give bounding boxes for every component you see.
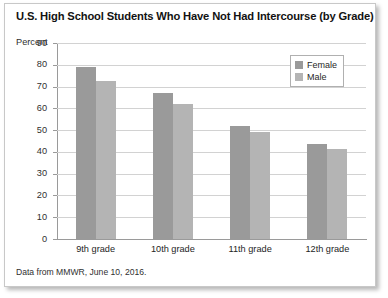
y-axis-tick-label: 30 <box>17 168 47 178</box>
y-axis-tick-label: 10 <box>17 212 47 222</box>
x-axis-tick-label: 9th grade <box>56 244 136 254</box>
bar-male-11th-grade <box>250 132 270 239</box>
y-axis-tick-mark <box>53 239 57 240</box>
legend-label: Male <box>307 72 327 82</box>
source-note: Data from MMWR, June 10, 2016. <box>16 267 146 277</box>
bar-female-12th-grade <box>307 144 327 239</box>
y-axis-tick-label: 70 <box>17 81 47 91</box>
chart-title: U.S. High School Students Who Have Not H… <box>16 10 366 22</box>
legend-label: Female <box>307 60 337 70</box>
x-axis-line <box>57 239 367 240</box>
y-axis-tick-label: 60 <box>17 103 47 113</box>
legend-swatch-male <box>295 73 303 81</box>
chart-figure: U.S. High School Students Who Have Not H… <box>4 3 376 287</box>
y-axis-tick-label: 0 <box>17 234 47 244</box>
bar-female-10th-grade <box>153 93 173 239</box>
y-axis-tick-label: 80 <box>17 59 47 69</box>
y-axis-tick-label: 90 <box>17 38 47 48</box>
legend-item-female: Female <box>295 59 337 71</box>
y-axis-tick-label: 40 <box>17 146 47 156</box>
bar-male-12th-grade <box>327 149 347 239</box>
legend-item-male: Male <box>295 71 337 83</box>
gridline <box>57 43 366 44</box>
y-axis-tick-label: 20 <box>17 190 47 200</box>
bar-female-9th-grade <box>76 67 96 239</box>
legend-swatch-female <box>295 61 303 69</box>
bar-male-10th-grade <box>173 104 193 239</box>
y-axis-tick-label: 50 <box>17 125 47 135</box>
chart-legend: FemaleMale <box>290 55 344 87</box>
x-axis-tick-label: 10th grade <box>133 244 213 254</box>
x-axis-tick-label: 12th grade <box>287 244 367 254</box>
bar-male-9th-grade <box>96 81 116 239</box>
x-axis-tick-label: 11th grade <box>210 244 290 254</box>
bar-female-11th-grade <box>230 126 250 239</box>
